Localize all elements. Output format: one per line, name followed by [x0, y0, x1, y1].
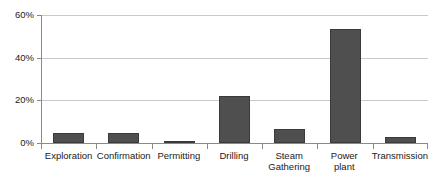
y-axis-tick-label: 40% — [0, 53, 34, 63]
x-axis-labels: ExplorationConfirmationPermittingDrillin… — [41, 150, 428, 172]
x-axis-tick — [152, 144, 153, 149]
x-axis-category-label: Exploration — [41, 150, 96, 172]
x-axis-tick — [207, 144, 208, 149]
bar-slot — [262, 15, 317, 143]
bar-slot — [207, 15, 262, 143]
x-axis-category-label: Drilling — [206, 150, 261, 172]
bar-slot — [41, 15, 96, 143]
x-axis-tick — [317, 144, 318, 149]
x-axis-category-label: Permitting — [151, 150, 206, 172]
y-axis-tick-label: 0% — [0, 138, 34, 148]
y-axis-tick-label: 60% — [0, 10, 34, 20]
bar-slot — [317, 15, 372, 143]
bar[interactable] — [330, 29, 361, 143]
x-axis-tick — [373, 144, 374, 149]
bar-chart: 60% 40% 20% 0% ExplorationConfirmationPe… — [0, 0, 436, 182]
x-axis-ticks — [41, 144, 428, 149]
bar-series — [41, 15, 428, 143]
bar-slot — [373, 15, 428, 143]
bar[interactable] — [108, 133, 139, 143]
y-axis-tick-label: 20% — [0, 95, 34, 105]
x-axis-tick — [41, 144, 42, 149]
x-axis-tick — [96, 144, 97, 149]
bar-slot — [152, 15, 207, 143]
bar[interactable] — [219, 96, 250, 143]
x-axis-category-label: Confirmation — [96, 150, 151, 172]
x-axis-tick — [262, 144, 263, 149]
bar[interactable] — [53, 133, 84, 143]
x-axis-tick — [427, 144, 428, 149]
x-axis-category-label: Transmission — [372, 150, 428, 172]
bar[interactable] — [274, 129, 305, 143]
y-axis-labels: 60% 40% 20% 0% — [0, 0, 34, 182]
bar-slot — [96, 15, 151, 143]
x-axis-category-label: Power plant — [317, 150, 372, 172]
x-axis-category-label: Steam Gathering — [262, 150, 317, 172]
